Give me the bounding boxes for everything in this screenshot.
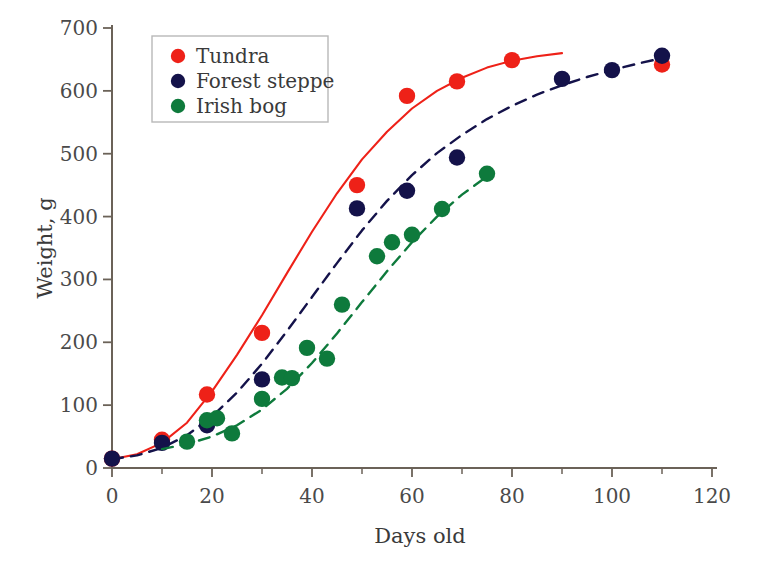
data-point — [479, 166, 495, 182]
chart-container: 0100200300400500600700020406080100120 Da… — [0, 0, 770, 574]
chart-legend: TundraForest steppeIrish bog — [152, 36, 334, 122]
legend-marker-icon — [171, 99, 185, 113]
y-tick-label: 600 — [60, 79, 98, 103]
x-tick-label: 20 — [199, 484, 224, 508]
y-tick-label: 500 — [60, 142, 98, 166]
data-point — [604, 62, 620, 78]
data-point — [179, 433, 195, 449]
legend-label: Irish bog — [196, 94, 287, 118]
data-point — [349, 200, 365, 216]
data-point — [399, 88, 415, 104]
legend-label: Tundra — [196, 44, 269, 68]
x-axis-title: Days old — [374, 524, 465, 548]
x-tick-label: 0 — [106, 484, 119, 508]
data-point — [319, 350, 335, 366]
data-point — [554, 71, 570, 87]
data-point — [284, 370, 300, 386]
data-point — [449, 73, 465, 89]
data-point — [369, 248, 385, 264]
x-tick-label: 40 — [299, 484, 324, 508]
x-tick-label: 80 — [499, 484, 524, 508]
x-tick-label: 120 — [693, 484, 731, 508]
data-point — [434, 201, 450, 217]
series-irish-bog — [162, 166, 495, 450]
y-tick-label: 300 — [60, 267, 98, 291]
data-point — [254, 325, 270, 341]
y-tick-label: 100 — [60, 393, 98, 417]
data-point — [299, 340, 315, 356]
y-tick-label: 400 — [60, 205, 98, 229]
y-tick-label: 200 — [60, 330, 98, 354]
data-point — [334, 296, 350, 312]
scatter-plot: 0100200300400500600700020406080100120 Da… — [0, 0, 770, 574]
data-point — [449, 149, 465, 165]
data-point — [399, 183, 415, 199]
y-tick-label: 700 — [60, 16, 98, 40]
data-point — [504, 52, 520, 68]
y-tick-label: 0 — [85, 456, 98, 480]
data-point — [224, 425, 240, 441]
data-point — [254, 391, 270, 407]
data-point — [654, 48, 670, 64]
data-point — [404, 227, 420, 243]
y-axis-title: Weight, g — [33, 197, 57, 298]
legend-label: Forest steppe — [196, 69, 334, 93]
x-tick-label: 60 — [399, 484, 424, 508]
x-tick-label: 100 — [593, 484, 631, 508]
data-point — [349, 177, 365, 193]
data-point — [104, 450, 120, 466]
legend-marker-icon — [171, 49, 185, 63]
fit-curve — [162, 176, 487, 449]
data-point — [254, 371, 270, 387]
legend-marker-icon — [171, 74, 185, 88]
data-point — [209, 410, 225, 426]
data-point — [199, 386, 215, 402]
data-point — [384, 234, 400, 250]
